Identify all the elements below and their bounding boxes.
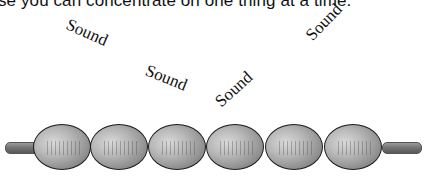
sound-label-3: Sound [211,67,257,111]
bead-5 [265,124,323,170]
sound-label-1: Sound [63,15,111,51]
bead-6 [324,124,382,170]
bead-1 [33,124,91,170]
bead-chain [0,118,424,178]
bead-3 [148,124,206,170]
diagram-canvas: se you can concentrate on one thing at a… [0,0,424,180]
caption-text: se you can concentrate on one thing at a… [0,0,351,11]
bead-4 [206,124,264,170]
right-rod [382,142,422,154]
bead-2 [90,124,148,170]
sound-label-2: Sound [142,61,190,96]
